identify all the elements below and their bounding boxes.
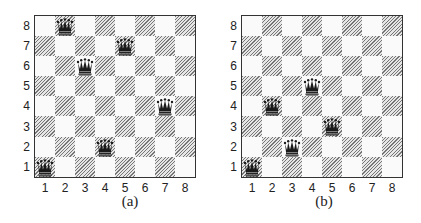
square-7-3 — [155, 116, 175, 136]
queen-icon — [76, 56, 94, 76]
square-3-8 — [75, 16, 95, 36]
square-3-3 — [75, 116, 95, 136]
file-label: 6 — [342, 181, 362, 195]
figure-b: (b) 8765432112345678 — [207, 0, 417, 223]
square-3-6 — [282, 56, 302, 76]
square-6-2 — [135, 137, 155, 157]
square-3-5 — [75, 76, 95, 96]
square-2-2 — [262, 137, 282, 157]
queen-icon — [263, 96, 281, 116]
square-8-4 — [382, 96, 402, 116]
queen-icon — [96, 137, 114, 157]
queen-icon — [36, 157, 54, 177]
square-6-4 — [135, 96, 155, 116]
chessboard-b — [241, 15, 403, 178]
queen-icon — [56, 16, 74, 36]
square-1-2 — [242, 137, 262, 157]
square-2-1 — [262, 157, 282, 177]
square-3-6 — [75, 56, 95, 76]
square-2-6 — [55, 56, 75, 76]
square-8-7 — [382, 36, 402, 56]
square-6-6 — [342, 56, 362, 76]
square-3-4 — [75, 96, 95, 116]
file-label: 5 — [115, 181, 135, 195]
square-4-3 — [95, 116, 115, 136]
square-5-6 — [115, 56, 135, 76]
square-2-5 — [55, 76, 75, 96]
square-1-7 — [242, 36, 262, 56]
chessboard-a — [34, 15, 196, 178]
square-5-8 — [322, 16, 342, 36]
caption-b: (b) — [304, 193, 344, 210]
square-2-2 — [55, 137, 75, 157]
caption-a: (a) — [110, 193, 150, 210]
square-1-1 — [35, 157, 55, 177]
square-7-7 — [155, 36, 175, 56]
square-1-4 — [35, 96, 55, 116]
square-6-8 — [135, 16, 155, 36]
square-3-7 — [75, 36, 95, 56]
rank-label: 4 — [225, 96, 237, 116]
square-5-3 — [115, 116, 135, 136]
square-7-6 — [155, 56, 175, 76]
square-6-3 — [135, 116, 155, 136]
square-8-3 — [382, 116, 402, 136]
square-4-5 — [95, 76, 115, 96]
square-5-3 — [322, 116, 342, 136]
rank-label: 5 — [225, 76, 237, 96]
rank-label: 6 — [225, 56, 237, 76]
rank-label: 3 — [18, 117, 30, 137]
square-4-6 — [95, 56, 115, 76]
square-3-1 — [282, 157, 302, 177]
square-6-4 — [342, 96, 362, 116]
square-7-8 — [155, 16, 175, 36]
square-6-8 — [342, 16, 362, 36]
file-label: 1 — [35, 181, 55, 195]
square-6-7 — [342, 36, 362, 56]
file-label: 8 — [382, 181, 402, 195]
square-5-6 — [322, 56, 342, 76]
square-1-6 — [242, 56, 262, 76]
square-6-1 — [342, 157, 362, 177]
file-label: 1 — [242, 181, 262, 195]
square-7-4 — [155, 96, 175, 116]
file-label: 4 — [302, 181, 322, 195]
rank-label: 7 — [18, 36, 30, 56]
square-3-4 — [282, 96, 302, 116]
square-8-8 — [175, 16, 195, 36]
square-7-8 — [362, 16, 382, 36]
square-5-7 — [115, 36, 135, 56]
square-1-3 — [35, 116, 55, 136]
file-label: 3 — [75, 181, 95, 195]
square-4-8 — [95, 16, 115, 36]
rank-label: 1 — [18, 157, 30, 177]
square-8-4 — [175, 96, 195, 116]
square-3-8 — [282, 16, 302, 36]
square-5-1 — [115, 157, 135, 177]
square-3-7 — [282, 36, 302, 56]
square-1-5 — [35, 76, 55, 96]
queen-icon — [283, 137, 301, 157]
square-8-2 — [382, 137, 402, 157]
file-label: 7 — [155, 181, 175, 195]
rank-label: 4 — [18, 96, 30, 116]
square-2-8 — [262, 16, 282, 36]
square-7-7 — [362, 36, 382, 56]
square-7-2 — [362, 137, 382, 157]
square-2-6 — [262, 56, 282, 76]
rank-label: 8 — [18, 16, 30, 36]
square-4-5 — [302, 76, 322, 96]
square-3-5 — [282, 76, 302, 96]
square-8-3 — [175, 116, 195, 136]
square-1-2 — [35, 137, 55, 157]
square-1-5 — [242, 76, 262, 96]
square-1-8 — [242, 16, 262, 36]
square-2-8 — [55, 16, 75, 36]
square-7-3 — [362, 116, 382, 136]
square-8-1 — [382, 157, 402, 177]
square-4-8 — [302, 16, 322, 36]
square-6-5 — [342, 76, 362, 96]
square-7-6 — [362, 56, 382, 76]
square-6-2 — [342, 137, 362, 157]
square-4-1 — [302, 157, 322, 177]
